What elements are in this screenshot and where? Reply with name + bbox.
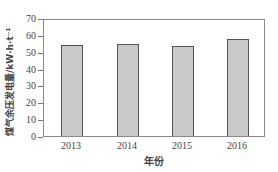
y-tick-label: 60 xyxy=(26,31,36,41)
y-tick xyxy=(38,137,43,138)
plot-area xyxy=(43,19,265,137)
y-tick-label: 0 xyxy=(31,132,36,142)
bar-2014 xyxy=(117,44,139,136)
x-tick-label: 2014 xyxy=(107,140,147,151)
y-tick-label: 50 xyxy=(26,48,36,58)
y-tick-label: 40 xyxy=(26,65,36,75)
y-tick-label: 10 xyxy=(26,115,36,125)
y-tick-label: 20 xyxy=(26,98,36,108)
bar-2013 xyxy=(61,45,83,136)
x-tick-label: 2015 xyxy=(162,140,202,151)
y-tick-label: 30 xyxy=(26,81,36,91)
x-tick-label: 2013 xyxy=(51,140,91,151)
y-tick-label: 70 xyxy=(26,14,36,24)
y-axis-title: 煤气余压发电量/kW·h·t⁻¹ xyxy=(3,28,16,136)
bar-2016 xyxy=(227,39,249,136)
x-axis-title: 年份 xyxy=(144,153,164,168)
bar-2015 xyxy=(172,46,194,136)
x-tick-label: 2016 xyxy=(217,140,257,151)
